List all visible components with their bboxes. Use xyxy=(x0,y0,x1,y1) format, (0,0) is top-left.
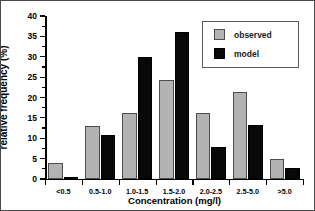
x-tick-mark xyxy=(45,180,46,185)
bar-model->5.0 xyxy=(285,168,300,179)
y-tick-label: 0 xyxy=(32,174,37,184)
bar-observed-2.5-5.0 xyxy=(233,92,248,179)
x-tick-mark xyxy=(82,180,83,185)
bar-observed-1.5-2.0 xyxy=(159,80,174,179)
bar-model-2.5-5.0 xyxy=(248,125,263,179)
bar-observed-1.0-1.5 xyxy=(122,113,137,179)
x-tick-mark xyxy=(303,180,304,185)
legend-label-model: model xyxy=(234,49,259,59)
legend-swatch-model-icon xyxy=(214,48,225,59)
legend-item-observed: observed xyxy=(214,29,272,40)
x-axis-title: Concentration (mg/l) xyxy=(45,195,304,206)
bar-observed->5.0 xyxy=(270,159,285,179)
bar-model-1.0-1.5 xyxy=(138,57,153,179)
y-tick-label: 10 xyxy=(28,133,37,143)
bar-observed-<0.5 xyxy=(48,163,63,179)
y-tick-label: 40 xyxy=(28,11,37,21)
legend-label-observed: observed xyxy=(234,30,272,40)
bar-model-1.5-2.0 xyxy=(175,32,190,179)
bar-model-2.0-2.5 xyxy=(211,147,226,179)
bar-model-<0.5 xyxy=(64,177,79,179)
y-tick-label: 25 xyxy=(28,72,37,82)
legend-item-model: model xyxy=(214,48,259,59)
x-tick-mark xyxy=(229,180,230,185)
x-tick-mark xyxy=(266,180,267,185)
y-tick-label: 15 xyxy=(28,113,37,123)
y-tick-label: 35 xyxy=(28,31,37,41)
y-tick-label: 5 xyxy=(32,154,37,164)
x-tick-mark xyxy=(192,180,193,185)
chart-figure: relative frequency (%) 0510152025303540 … xyxy=(0,0,315,211)
bar-observed-2.0-2.5 xyxy=(196,113,211,179)
x-tick-mark xyxy=(119,180,120,185)
bar-model-0.5-1.0 xyxy=(101,135,116,179)
y-axis-title: relative frequency (%) xyxy=(0,16,12,179)
y-tick-label: 30 xyxy=(28,52,37,62)
y-tick-label: 20 xyxy=(28,93,37,103)
chart-legend: observed model xyxy=(202,21,299,68)
x-tick-mark xyxy=(156,180,157,185)
bar-observed-0.5-1.0 xyxy=(85,126,100,179)
legend-swatch-observed-icon xyxy=(214,29,225,40)
